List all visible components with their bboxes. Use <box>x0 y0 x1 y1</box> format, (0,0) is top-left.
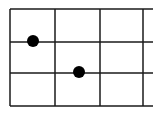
horizontal-lines <box>10 9 153 106</box>
dot-marker <box>27 35 39 47</box>
vertical-lines <box>10 9 143 106</box>
dot-marker <box>73 66 85 78</box>
grid-diagram <box>0 0 161 115</box>
